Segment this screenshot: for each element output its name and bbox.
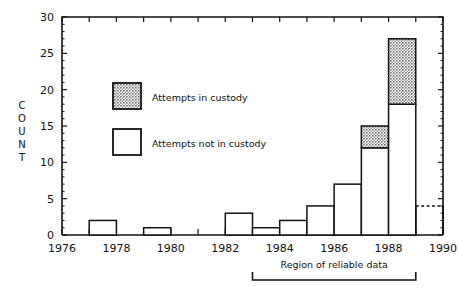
bar-segment-not-in-custody [334, 184, 361, 235]
y-axis-title-letter: N [18, 139, 25, 150]
x-tick-label: 1978 [102, 242, 130, 255]
legend-label: Attempts in custody [152, 92, 248, 103]
bar-segment-not-in-custody [389, 104, 416, 235]
x-tick-label: 1980 [157, 242, 185, 255]
bar-segment-in-custody [389, 39, 416, 104]
legend-label: Attempts not in custody [152, 138, 267, 149]
y-axis-title-letter: C [19, 100, 26, 111]
chart-legend: Attempts in custodyAttempts not in custo… [113, 83, 267, 155]
region-annotation: Region of reliable data [253, 259, 416, 280]
bar-segment-not-in-custody [361, 148, 388, 235]
bar-segment-not-in-custody [225, 213, 252, 235]
bars-group [89, 39, 443, 235]
y-tick-label: 30 [40, 11, 54, 24]
x-tick-label: 1990 [429, 242, 457, 255]
y-tick-label: 5 [47, 193, 54, 206]
bar-segment-not-in-custody [253, 228, 280, 235]
legend-swatch-in-custody [113, 83, 141, 109]
y-tick-label: 15 [40, 120, 54, 133]
attempts-by-year-bar-chart: 051015202530 197619781980198219841986198… [0, 0, 459, 291]
y-tick-label: 0 [47, 229, 54, 242]
x-tick-label: 1984 [266, 242, 294, 255]
y-axis-title-letter: T [18, 152, 26, 163]
reliable-data-bracket [253, 272, 416, 280]
bar-segment-not-in-custody [307, 206, 334, 235]
y-axis-title: COUNT [18, 100, 26, 163]
x-tick-label: 1988 [375, 242, 403, 255]
y-tick-label: 10 [40, 156, 54, 169]
y-tick-label: 25 [40, 47, 54, 60]
legend-swatch-not-in-custody [113, 129, 141, 155]
x-tick-label: 1976 [48, 242, 76, 255]
y-tick-label: 20 [40, 84, 54, 97]
bar-segment-not-in-custody [280, 220, 307, 235]
bar-segment-not-in-custody [144, 228, 171, 235]
y-axis-title-letter: U [18, 126, 25, 137]
bar-segment-in-custody [361, 126, 388, 148]
reliable-data-label: Region of reliable data [280, 259, 387, 270]
chart-container: 051015202530 197619781980198219841986198… [0, 0, 459, 291]
bar-segment-not-in-custody [89, 220, 116, 235]
x-tick-label: 1982 [211, 242, 239, 255]
x-tick-label: 1986 [320, 242, 348, 255]
y-axis-title-letter: O [18, 113, 26, 124]
